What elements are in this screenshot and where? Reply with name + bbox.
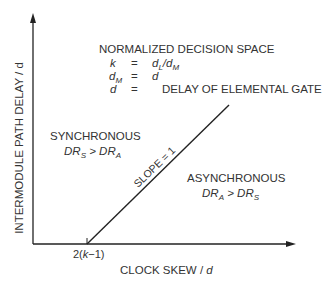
- y-axis-arrow-icon: [30, 13, 36, 23]
- svg-text:SYNCHRONOUS: SYNCHRONOUS: [50, 130, 141, 142]
- asynchronous-region-label: ASYNCHRONOUS DRA > DRS: [187, 172, 286, 202]
- svg-text:DELAY OF ELEMENTAL GATE: DELAY OF ELEMENTAL GATE: [162, 83, 322, 95]
- svg-text:=: =: [131, 57, 138, 69]
- svg-text:d: d: [152, 70, 159, 82]
- diagram-svg: INTERMODULE PATH DELAY / d NORMALIZED DE…: [0, 0, 326, 291]
- svg-text:ASYNCHRONOUS: ASYNCHRONOUS: [187, 172, 286, 184]
- svg-text:=: =: [131, 70, 138, 82]
- svg-text:=: =: [131, 83, 138, 95]
- x-tick-label: 2(k−1): [73, 248, 105, 260]
- x-axis-label: CLOCK SKEW / d: [120, 264, 213, 276]
- definition-k: k = dL/dM: [110, 57, 179, 72]
- svg-text:DRA > DRS: DRA > DRS: [202, 187, 260, 202]
- synchronous-region-label: SYNCHRONOUS DRS > DRA: [50, 130, 141, 160]
- y-axis-label: INTERMODULE PATH DELAY / d: [13, 62, 25, 234]
- svg-text:DRS > DRA: DRS > DRA: [64, 145, 121, 160]
- svg-text:k: k: [110, 57, 117, 69]
- diagram-title: NORMALIZED DECISION SPACE: [99, 43, 275, 55]
- definition-d: d = DELAY OF ELEMENTAL GATE: [110, 83, 322, 95]
- slope-label: SLOPE = 1: [131, 144, 177, 189]
- decision-space-diagram: INTERMODULE PATH DELAY / d NORMALIZED DE…: [0, 0, 326, 291]
- x-axis-arrow-icon: [286, 241, 296, 247]
- svg-text:d: d: [110, 83, 117, 95]
